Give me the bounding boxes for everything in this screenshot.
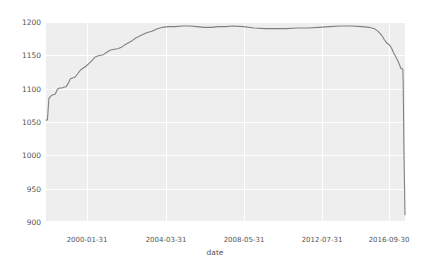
y-tick-label-1100: 1100 — [0, 84, 41, 93]
plot-area — [46, 22, 405, 222]
y-tick-label-1200: 1200 — [0, 18, 41, 27]
x-axis-title: date — [0, 248, 430, 257]
y-tick-label-1150: 1150 — [0, 51, 41, 60]
series-line-count — [46, 22, 405, 222]
x-tick-label-2: 2008-05-31 — [224, 236, 265, 244]
x-tick-label-4: 2016-09-30 — [369, 236, 410, 244]
y-tick-label-1000: 1000 — [0, 151, 41, 160]
y-tick-label-900: 900 — [0, 218, 41, 227]
x-tick-label-3: 2012-07-31 — [302, 236, 343, 244]
series-polyline — [46, 26, 405, 215]
y-tick-label-1050: 1050 — [0, 118, 41, 127]
x-tick-label-0: 2000-01-31 — [67, 236, 108, 244]
chart-figure: 90095010001050110011501200 2000-01-31200… — [0, 0, 430, 268]
y-tick-label-950: 950 — [0, 184, 41, 193]
x-tick-label-1: 2004-03-31 — [146, 236, 187, 244]
